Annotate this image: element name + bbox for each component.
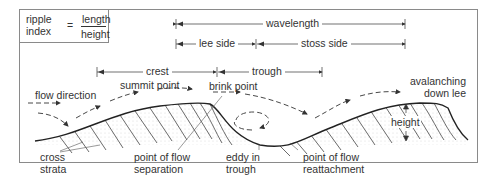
flow-direction-label: flow direction [35,89,96,101]
wavelength-label: wavelength [263,17,322,29]
cross-strata-label-line1: cross [40,151,65,163]
flow-separation-label-line1: point of flow [134,151,190,163]
height-label: height [390,116,421,128]
ripple-index-label-bottom: index [26,25,51,37]
reattachment-label-line1: point of flow [303,151,359,163]
stoss-side-label: stoss side [298,37,351,49]
reattachment-label-line2: reattachment [303,163,364,175]
ripple-index-denominator: height [81,28,110,40]
ripple-index-box: ripple index = length height [19,9,109,43]
summit-point-label: summit point [120,79,180,91]
equals-sign: = [67,19,73,31]
ripple-index-label-top: ripple [26,13,52,25]
cross-strata-label-line2: strata [40,163,66,175]
eddy-label-line1: eddy in [226,151,260,163]
fraction-bar [81,26,106,27]
trough-label: trough [249,65,285,77]
eddy-label-line2: trough [226,163,256,175]
lee-side-label: lee side [196,37,238,49]
ripple-index-numerator: length [82,13,111,25]
flow-separation-label-line2: separation [134,163,183,175]
brink-point-label: brink point [209,80,257,92]
avalanching-label-line1: avalanching [410,75,466,87]
avalanching-label-line2: down lee [424,87,466,99]
crest-label: crest [143,65,172,77]
